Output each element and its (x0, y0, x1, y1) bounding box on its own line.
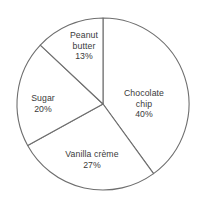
pie-slice-group (17, 18, 189, 190)
pie-chart-canvas (0, 0, 201, 206)
pie-chart: Chocolate chip 40% Vanilla crème 27% Sug… (0, 0, 201, 206)
